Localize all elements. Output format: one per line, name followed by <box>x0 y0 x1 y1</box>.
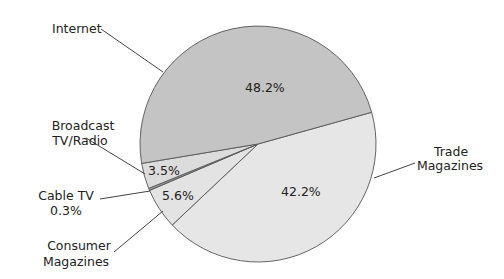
leader-line-cable <box>100 191 150 199</box>
slice-value-trade: 42.2% <box>281 184 321 199</box>
label-consumer-line2: Magazines <box>43 254 109 269</box>
label-cable-line1: Cable TV <box>38 188 94 203</box>
pie-slices <box>140 26 376 262</box>
label-trade-line1: Trade <box>433 144 469 159</box>
leader-line-trade <box>374 163 415 178</box>
label-internet: Internet <box>52 21 102 36</box>
label-cable-value: 0.3% <box>50 203 82 218</box>
slice-value-internet: 48.2% <box>245 80 285 95</box>
slice-value-broadcast: 3.5% <box>148 163 180 178</box>
leader-line-consumer <box>114 211 163 252</box>
label-broadcast-line1: Broadcast <box>52 118 115 133</box>
pie-chart: 48.2% 42.2% 5.6% 3.5% Internet Broadcast… <box>0 0 504 279</box>
slice-value-consumer: 5.6% <box>162 188 194 203</box>
label-broadcast-line2: TV/Radio <box>51 133 108 148</box>
label-trade-line2: Magazines <box>417 158 483 173</box>
label-consumer-line1: Consumer <box>47 238 112 253</box>
leader-line-internet <box>101 29 163 72</box>
